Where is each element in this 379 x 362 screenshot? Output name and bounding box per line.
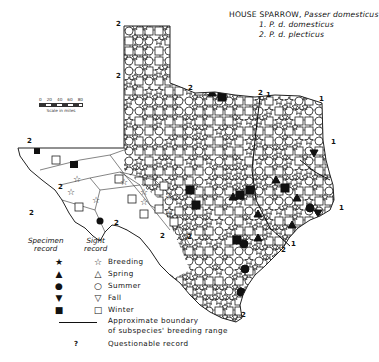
svg-text:☆: ☆ [67, 187, 75, 197]
legend-specimen-header: Specimen record [28, 237, 63, 253]
subspecies-label: 1 [339, 204, 344, 212]
legend-row-winter: ■ □ Winter [0, 304, 230, 316]
subspecies-label: 2 [116, 72, 121, 80]
subspecies-label: 2 [114, 219, 119, 227]
subspecies-label: 2 [160, 232, 165, 240]
specimen-star-icon: ★ [52, 256, 66, 268]
legend-label: Spring [108, 268, 134, 280]
svg-text:☆: ☆ [120, 177, 128, 187]
specimen-circle-icon: ● [52, 280, 66, 292]
specimen-triangle-down-icon: ▼ [52, 292, 66, 304]
legend-questionable-label: Questionable record [108, 338, 188, 350]
legend-label: Breeding [108, 256, 143, 268]
svg-text:☆: ☆ [73, 174, 81, 184]
subspecies-label: 1 [331, 138, 336, 146]
legend-label: Fall [108, 292, 121, 304]
boundary-line-icon [59, 322, 97, 323]
subspecies-label: 2 [188, 84, 193, 92]
subspecies-label: 2 [116, 20, 121, 28]
sight-star-icon: ☆ [91, 256, 105, 268]
svg-text:☆: ☆ [165, 192, 173, 202]
svg-text:☆: ☆ [92, 195, 100, 205]
legend-sight-header: Sight record [84, 237, 107, 253]
specimen-square-icon: ■ [52, 304, 66, 316]
subspecies-label: 2 [27, 137, 32, 145]
sight-triangle-down-icon: ▽ [91, 292, 105, 304]
svg-text:☆: ☆ [7, 174, 15, 184]
subspecies-label: 2 [241, 311, 246, 319]
questionable-icon: ? [74, 338, 78, 350]
subspecies-label: 2 [58, 183, 63, 191]
sight-circle-icon: ○ [91, 280, 105, 292]
sight-triangle-up-icon: △ [91, 268, 105, 280]
legend-sight-header-line2: record [84, 245, 107, 253]
subspecies-label: 2 [187, 233, 192, 241]
legend-row-spring: ▲ △ Spring [0, 268, 230, 280]
legend-label: Summer [108, 280, 141, 292]
svg-text:☆: ☆ [140, 187, 148, 197]
legend-boundary-label: Approximate boundary of subspecies' bree… [108, 316, 228, 336]
legend-row-summer: ● ○ Summer [0, 280, 230, 292]
boundary-label-line1: Approximate boundary [108, 316, 228, 326]
legend-specimen-header-line2: record [28, 245, 63, 253]
legend-row-fall: ▼ ▽ Fall [0, 292, 230, 304]
subspecies-label: 2 [258, 89, 263, 97]
subspecies-label: 2 [29, 209, 34, 217]
specimen-triangle-up-icon: ▲ [52, 268, 66, 280]
subspecies-label: 1 [291, 240, 296, 248]
legend-label: Winter [108, 304, 134, 316]
boundary-label-line2: of subspecies' breeding range [108, 326, 228, 336]
subspecies-label: 1 [266, 91, 271, 99]
sight-square-icon: □ [91, 304, 105, 316]
legend-row-breeding: ★ ☆ Breeding [0, 256, 230, 268]
svg-text:☆: ☆ [165, 209, 173, 219]
subspecies-label: 1 [319, 95, 324, 103]
svg-text:☆: ☆ [140, 197, 148, 207]
subspecies-label: 2 [281, 246, 286, 254]
